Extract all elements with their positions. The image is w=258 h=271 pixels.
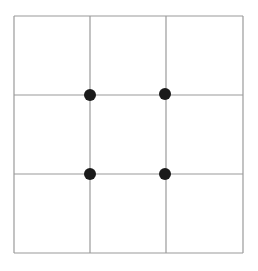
intersection-dot-2 <box>159 88 171 100</box>
intersection-dot-1 <box>84 89 96 101</box>
intersection-dot-4 <box>159 168 171 180</box>
grid-lines <box>14 16 243 253</box>
rule-of-thirds-diagram <box>0 0 258 271</box>
intersection-points <box>84 88 171 180</box>
intersection-dot-3 <box>84 168 96 180</box>
